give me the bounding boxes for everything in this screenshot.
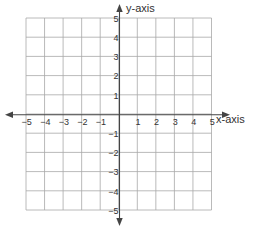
x-tick-label: 3 [173,117,178,127]
x-tick-label: 5 [210,117,215,127]
coordinate-plane: −5−4−3−2−112345 54321−1−2−3−4−5 x-axis y… [0,0,255,228]
y-tick-label: −1 [108,129,118,139]
x-tick-label: −2 [77,117,87,127]
grid [26,18,212,210]
x-axis-label: x-axis [216,113,245,125]
y-tick-label: −2 [108,148,118,158]
y-tick-label: 4 [113,33,118,43]
y-tick-label: −5 [108,206,118,216]
x-tick-label: 4 [191,117,196,127]
y-tick-label: 2 [113,71,118,81]
x-tick-label: 2 [154,117,159,127]
y-axis-down-arrow-icon [116,218,122,226]
x-axis-left-arrow-icon [5,112,13,118]
y-tick-label: −4 [108,187,118,197]
y-axis-label: y-axis [126,2,155,14]
y-axis-up-arrow-icon [116,4,122,12]
x-tick-label: −5 [22,117,32,127]
y-tick-label: −3 [108,167,118,177]
x-tick-labels: −5−4−3−2−112345 [22,117,215,127]
x-tick-label: 1 [136,117,141,127]
y-tick-label: 5 [113,14,118,24]
y-tick-label: 1 [113,91,118,101]
x-tick-label: −4 [40,117,50,127]
y-tick-label: 3 [113,52,118,62]
x-tick-label: −3 [59,117,69,127]
x-tick-label: −1 [96,117,106,127]
